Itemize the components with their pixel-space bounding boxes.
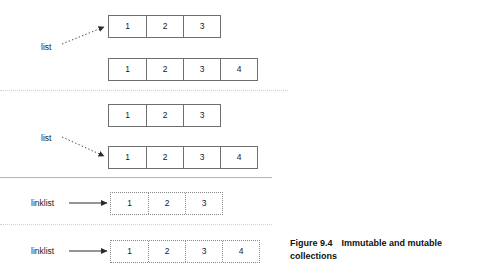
collection-row: 1 2 3 4	[108, 58, 258, 81]
figure-diagram: 1 2 3 list 1 2 3 4 1 2 3 list 1 2 3 4 li…	[0, 0, 482, 277]
figure-caption: Figure 9.4Immutable and mutable collecti…	[290, 237, 476, 263]
collection-cell: 1	[111, 193, 148, 214]
collection-cell: 3	[185, 193, 222, 214]
collection-cell: 1	[109, 147, 146, 168]
collection-cell: 2	[146, 105, 183, 126]
collection-row: 1 2 3	[108, 104, 221, 127]
collection-row: 1 2 3	[108, 15, 221, 38]
collection-cell: 1	[109, 16, 146, 37]
collection-row: 1 2 3	[110, 192, 223, 215]
collection-row: 1 2 3 4	[110, 240, 260, 263]
collection-cell: 3	[185, 241, 222, 262]
pointer-arrow-list-2	[62, 137, 104, 156]
reference-label-list: list	[41, 43, 51, 52]
collection-cell: 4	[222, 241, 259, 262]
collection-row: 1 2 3 4	[108, 146, 258, 169]
collection-cell: 2	[148, 193, 185, 214]
collection-cell: 2	[146, 16, 183, 37]
panel-divider	[0, 224, 272, 225]
panel-divider	[0, 177, 272, 178]
collection-cell: 4	[220, 147, 257, 168]
connector-layer: up-right into 3-cell box --> down-right …	[0, 0, 482, 277]
reference-label-list: list	[41, 134, 51, 143]
reference-label-linklist: linklist	[31, 247, 54, 256]
collection-cell: 3	[183, 59, 220, 80]
collection-cell: 1	[111, 241, 148, 262]
reference-label-linklist: linklist	[31, 199, 54, 208]
collection-cell: 1	[109, 59, 146, 80]
collection-cell: 1	[109, 105, 146, 126]
panel-divider	[0, 90, 288, 91]
pointer-arrow-list-1	[62, 27, 104, 44]
collection-cell: 3	[183, 105, 220, 126]
collection-cell: 3	[183, 16, 220, 37]
collection-cell: 2	[146, 147, 183, 168]
collection-cell: 4	[220, 59, 257, 80]
collection-cell: 3	[183, 147, 220, 168]
collection-cell: 2	[146, 59, 183, 80]
collection-cell: 2	[148, 241, 185, 262]
figure-caption-number: Figure 9.4	[290, 238, 333, 248]
